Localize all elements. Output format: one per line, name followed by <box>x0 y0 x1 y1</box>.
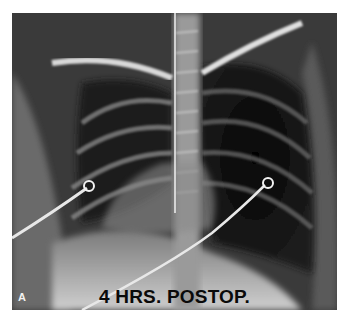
xray-illustration <box>12 13 337 310</box>
chest-xray-image: A 4 HRS. POSTOP. <box>12 13 337 310</box>
image-caption: 4 HRS. POSTOP. <box>12 286 337 308</box>
